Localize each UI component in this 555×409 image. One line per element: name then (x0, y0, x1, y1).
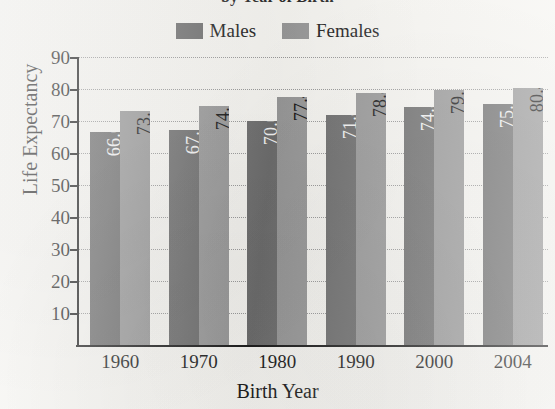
bar-females-1980[interactable]: 77.4 (277, 97, 307, 345)
x-axis-tick-label: 1990 (316, 352, 396, 371)
bar-value-label: 75.2 (498, 104, 513, 128)
bar-group: 75.280.4 (483, 57, 543, 345)
legend-item-males: Males (176, 21, 256, 40)
y-axis-tick (70, 89, 77, 91)
bar-value-label: 74.7 (214, 106, 229, 130)
legend-item-females: Females (282, 21, 379, 40)
y-axis-tick-label: 40 (30, 208, 70, 227)
y-axis-tick (70, 57, 77, 59)
y-axis-tick (70, 249, 77, 251)
y-axis-tick-labels: 908070605040302010 (26, 57, 70, 345)
bar-males-1990[interactable]: 71.8 (326, 115, 356, 345)
bar-value-label: 70.0 (262, 121, 277, 145)
bar-value-label: 67.1 (184, 130, 199, 154)
chart-legend: Males Females (0, 21, 555, 40)
bar-value-label: 66.6 (105, 132, 120, 156)
bar-females-1970[interactable]: 74.7 (199, 106, 229, 345)
y-axis-tick (70, 185, 77, 187)
bar-series-container: 66.673.167.174.770.077.471.878.874.379.7… (77, 57, 548, 345)
legend-label-females: Females (316, 21, 379, 40)
bar-value-label: 71.8 (341, 115, 356, 139)
x-axis-tick-labels: 196019701980199020002004 (77, 352, 548, 378)
chart-title: by Year of Birth (0, 0, 555, 6)
y-axis-tick-label: 90 (30, 48, 70, 67)
y-axis-tick-label: 20 (30, 272, 70, 291)
bar-males-2000[interactable]: 74.3 (404, 107, 434, 345)
legend-swatch-females (282, 23, 309, 39)
y-axis-tick-label: 80 (30, 80, 70, 99)
bar-males-1960[interactable]: 66.6 (90, 132, 120, 345)
bar-group: 66.673.1 (90, 57, 150, 345)
x-axis-tick-label: 1970 (159, 352, 239, 371)
x-axis-tick-label: 2000 (394, 352, 474, 371)
y-axis-tick (70, 313, 77, 315)
bar-males-1970[interactable]: 67.1 (169, 130, 199, 345)
x-axis-line (76, 345, 548, 347)
y-axis-tick-label: 70 (30, 112, 70, 131)
bar-females-2000[interactable]: 79.7 (434, 90, 464, 345)
y-axis-tick (70, 281, 77, 283)
bar-group: 74.379.7 (404, 57, 464, 345)
y-axis-tick-label: 50 (30, 176, 70, 195)
y-axis-tick (70, 153, 77, 155)
bar-value-label: 79.7 (449, 90, 464, 114)
bar-females-1990[interactable]: 78.8 (356, 93, 386, 345)
life-expectancy-bar-chart: by Year of Birth Males Females Life Expe… (0, 0, 555, 409)
y-axis-tick-label: 60 (30, 144, 70, 163)
bar-females-1960[interactable]: 73.1 (120, 111, 150, 345)
bar-group: 67.174.7 (169, 57, 229, 345)
bar-value-label: 73.1 (135, 111, 150, 135)
legend-swatch-males (176, 23, 203, 39)
x-axis-tick-label: 1980 (237, 352, 317, 371)
y-axis-tick (70, 217, 77, 219)
y-axis-tick-label: 10 (30, 304, 70, 323)
bar-value-label: 77.4 (292, 97, 307, 121)
bar-males-1980[interactable]: 70.0 (247, 121, 277, 345)
y-axis-tick (70, 121, 77, 123)
bar-females-2004[interactable]: 80.4 (513, 88, 543, 345)
x-axis-title: Birth Year (0, 380, 555, 403)
plot-area: 66.673.167.174.770.077.471.878.874.379.7… (77, 57, 548, 345)
bar-males-2004[interactable]: 75.2 (483, 104, 513, 345)
x-axis-tick-label: 2004 (473, 352, 553, 371)
bar-value-label: 80.4 (528, 88, 543, 112)
legend-label-males: Males (210, 21, 256, 40)
bar-group: 70.077.4 (247, 57, 307, 345)
x-axis-tick-label: 1960 (80, 352, 160, 371)
bar-group: 71.878.8 (326, 57, 386, 345)
bar-value-label: 74.3 (419, 107, 434, 131)
bar-value-label: 78.8 (371, 93, 386, 117)
y-axis-tick-label: 30 (30, 240, 70, 259)
